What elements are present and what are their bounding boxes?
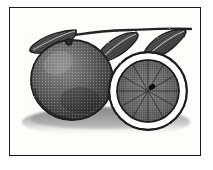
halved-orange [109,52,187,130]
illustration-root: Orange — whole fruit and cut half with l… [0,0,213,170]
artwork-canvas [0,0,213,170]
whole-orange [31,39,113,120]
